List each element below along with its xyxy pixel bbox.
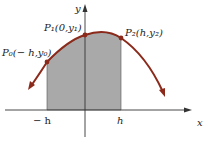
tick-label-h: h	[117, 115, 123, 126]
y-axis-label: y	[74, 3, 81, 14]
curve-right-arrow-icon	[159, 88, 165, 97]
point-p1	[83, 33, 88, 38]
point-p2	[119, 36, 124, 41]
point-label-p0: P₀(− h,y₀)	[1, 47, 51, 58]
shaded-area	[47, 32, 121, 110]
point-p0	[45, 60, 50, 65]
y-axis-arrow-icon	[83, 4, 88, 12]
x-axis-label: x	[197, 117, 203, 128]
x-axis-arrow-icon	[184, 108, 192, 113]
point-label-p2: P₂(h,y₂)	[124, 27, 163, 38]
point-label-p1: P₁(0,y₁)	[43, 22, 82, 33]
parabola-diagram: y x − h h P₀(− h,y₀) P₁(0,y₁) P₂(h,y₂)	[0, 0, 209, 150]
tick-label-neg-h: − h	[33, 115, 52, 126]
